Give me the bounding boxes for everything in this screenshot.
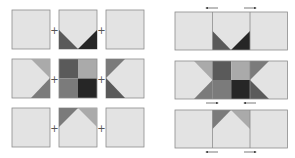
flying-geese-right-unit [12, 59, 50, 98]
left-panel-exploded-layout: + + + + [12, 10, 144, 147]
flying-geese-down-unit [59, 10, 97, 49]
left-row-2: + + [12, 59, 144, 98]
right-row-1 [175, 8, 288, 50]
flying-geese-left-unit [106, 59, 144, 98]
plus-sign: + [97, 123, 105, 134]
left-row-1: + + [12, 10, 144, 49]
right-row-3 [175, 110, 288, 152]
plain-square-unit [106, 10, 144, 49]
plain-square-unit [12, 108, 50, 147]
plus-sign: + [50, 123, 58, 134]
left-row-3: + + [12, 108, 144, 147]
right-row-2 [175, 61, 288, 103]
plain-square-unit [12, 10, 50, 49]
right-panel-joined-rows [175, 8, 288, 152]
plus-sign: + [97, 25, 105, 36]
plain-square-unit [106, 108, 144, 147]
four-patch-center-unit [59, 59, 97, 98]
plus-sign: + [97, 74, 105, 85]
plus-sign: + [50, 25, 58, 36]
quilt-assembly-diagram: + + + + [0, 0, 295, 158]
flying-geese-up-unit [59, 108, 97, 147]
plus-sign: + [50, 74, 58, 85]
